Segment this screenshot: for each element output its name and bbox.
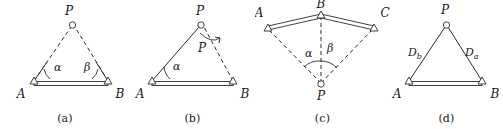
panel-c-caption: (c) [255,112,390,125]
point-label-p: P [64,4,74,18]
point-label-a: A [255,6,264,20]
distance-label-db-base: D [407,46,417,59]
angle-arc-alpha [164,67,170,79]
angle-label-alpha: α [54,61,62,74]
panel-d-caption: (d) [390,112,503,125]
angle-arc-beta [321,61,337,68]
panel-d: P A B Db Da (d) [390,0,503,129]
point-label-p: P [316,89,326,103]
panel-b: P P A B α (b) [130,0,255,129]
point-label-a: A [135,87,145,101]
panel-d-diagram: P A B Db Da [390,0,503,112]
panel-c-diagram: A B C P α β B [255,0,390,112]
distance-label-db-sub: b [417,52,422,61]
point-label-a: A [16,87,26,101]
angle-label-beta: β [83,61,90,74]
distance-label-db: Db [407,46,422,61]
point-label-b: B [316,0,326,11]
vertex-marker-b [229,77,237,84]
point-label-p: P [195,4,205,18]
edge-b-to-p [204,27,233,81]
vertex-marker-p [318,81,324,87]
panel-b-caption: (b) [130,112,255,125]
vertex-marker-b [104,77,112,84]
point-label-b: B [240,87,250,101]
edge-p-to-c [321,30,372,83]
vertex-marker-p [198,22,204,28]
panel-a-diagram: P A B α β [0,0,130,112]
baseline-a-b [152,82,233,86]
angle-arc-beta [92,69,98,79]
angle-arc-alpha [304,61,321,67]
baseline-a-b [268,14,321,30]
vertex-marker-p [69,22,75,28]
point-label-p-shifted: P [197,41,207,55]
vertex-marker-a [405,77,413,84]
point-label-p: P [440,3,450,17]
distance-label-da-base: D [464,46,474,59]
vertex-marker-b [478,77,486,84]
baseline-a-b [409,82,482,86]
distance-label-da-sub: a [474,52,479,61]
figure-container: P A B α β (a) P P A [0,0,503,129]
point-label-a: A [392,87,402,101]
panel-b-diagram: P P A B α [130,0,255,112]
edge-p-to-a [269,30,321,83]
position-shift-arrow [200,33,220,40]
panel-c: A B C P α β B (c) [255,0,390,129]
angle-label-alpha: α [173,60,181,73]
baseline-b-c [321,14,374,30]
angle-label-alpha: α [305,47,313,60]
point-label-c: C [380,6,389,20]
panel-a: P A B α β (a) [0,0,130,129]
distance-label-da: Da [464,46,479,61]
point-label-b: B [115,87,125,101]
vertex-marker-p [443,22,449,28]
point-label-b: B [490,87,500,101]
vertex-marker-a [30,77,38,84]
panel-a-caption: (a) [0,112,130,125]
angle-arc-alpha [44,69,50,79]
angle-label-beta: β [326,42,333,55]
baseline-a-b [34,82,108,86]
